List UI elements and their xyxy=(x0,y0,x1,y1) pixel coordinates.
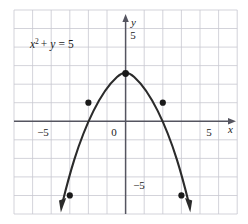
data-point xyxy=(67,192,73,198)
data-point xyxy=(160,100,166,106)
data-point xyxy=(85,100,91,106)
x-tick-label-negative-5: −5 xyxy=(37,126,49,138)
x-tick-label-origin: 0 xyxy=(111,126,117,138)
coordinate-plane-graph: x2+y=5 y x −5 0 5 5 −5 xyxy=(0,0,248,224)
y-axis-label: y xyxy=(130,16,136,28)
x-axis-label: x xyxy=(227,123,233,135)
equation-equals: = xyxy=(58,38,65,50)
equation-y: y xyxy=(49,38,56,51)
data-point xyxy=(178,192,184,198)
graph-figure: x2+y=5 y x −5 0 5 5 −5 xyxy=(0,0,248,224)
equation-plus: + xyxy=(41,38,48,50)
equation-exponent: 2 xyxy=(35,37,39,46)
x-tick-label-positive-5: 5 xyxy=(206,126,212,138)
y-tick-label-negative-5: −5 xyxy=(133,179,145,191)
equation-five: 5 xyxy=(68,38,74,50)
y-tick-label-positive-5: 5 xyxy=(130,29,136,41)
data-point-vertex xyxy=(122,70,129,77)
figure-background xyxy=(0,0,248,224)
